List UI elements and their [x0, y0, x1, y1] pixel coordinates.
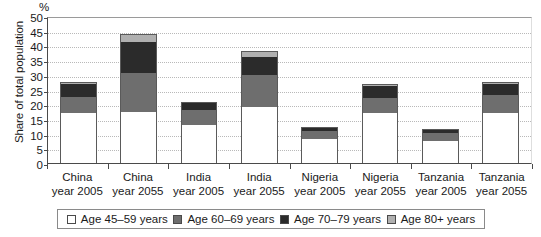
x-axis-label-year: year 2005 [168, 184, 229, 198]
legend-swatch-icon [173, 215, 182, 224]
bar-segment [241, 75, 278, 107]
y-axis-tick-label: 50 [21, 12, 43, 24]
x-axis-label: Tanzaniayear 2055 [471, 170, 532, 198]
bar-segment [120, 42, 157, 73]
bar-slot [290, 18, 350, 163]
y-axis-tick-label: 40 [21, 41, 43, 53]
bar-segment [120, 34, 157, 43]
x-axis-label: Indiayear 2005 [168, 170, 229, 198]
x-axis-label: Nigeriayear 2055 [350, 170, 411, 198]
bar-segment [482, 95, 519, 113]
stacked-bar[interactable] [181, 102, 218, 163]
bar-segment [181, 110, 218, 125]
x-axis-labels: Chinayear 2005Chinayear 2055Indiayear 20… [47, 170, 532, 198]
legend-swatch-icon [280, 215, 289, 224]
x-axis-label-country: Tanzania [411, 170, 472, 184]
bar-segment [301, 139, 338, 163]
stacked-bar[interactable] [120, 34, 157, 163]
x-axis-tick-mark [47, 164, 48, 169]
y-axis-tick-label: 35 [21, 56, 43, 68]
bar-segment [482, 113, 519, 163]
x-axis-label: Indiayear 2055 [229, 170, 290, 198]
bar-segment [181, 103, 218, 110]
x-axis-label-country: India [229, 170, 290, 184]
x-axis-tick-mark [411, 164, 412, 169]
stacked-bar[interactable] [241, 51, 278, 163]
x-axis-label: Chinayear 2005 [47, 170, 108, 198]
y-axis-tick-label: 45 [21, 27, 43, 39]
legend-label: Age 70–79 years [294, 213, 381, 225]
x-axis-label-country: Nigeria [290, 170, 351, 184]
legend-item[interactable]: Age 80+ years [387, 213, 475, 225]
legend-label: Age 45–59 years [81, 213, 168, 225]
x-axis-label-year: year 2005 [47, 184, 108, 198]
x-axis-label: Tanzaniayear 2005 [411, 170, 472, 198]
x-axis-label-year: year 2055 [229, 184, 290, 198]
bar-segment [60, 113, 97, 163]
bar-segment [482, 84, 519, 95]
bar-segment [362, 98, 399, 113]
stacked-bar[interactable] [482, 82, 519, 163]
x-axis-label-country: Tanzania [471, 170, 532, 184]
x-axis-label-year: year 2055 [350, 184, 411, 198]
x-axis-label-year: year 2005 [411, 184, 472, 198]
y-axis-tick-label: 0 [21, 159, 43, 171]
bar-segment [120, 112, 157, 163]
x-axis-label-country: China [47, 170, 108, 184]
bar-segment [362, 113, 399, 163]
y-axis-tick-label: 15 [21, 115, 43, 127]
x-axis-label-country: China [108, 170, 169, 184]
x-axis-label-year: year 2005 [290, 184, 351, 198]
x-axis-ticks [47, 164, 532, 169]
stacked-bar[interactable] [362, 84, 399, 163]
x-axis-tick-mark [350, 164, 351, 169]
y-axis-tick-label: 10 [21, 130, 43, 142]
x-axis-label-year: year 2055 [108, 184, 169, 198]
bar-segment [422, 141, 459, 163]
bar-slot [48, 18, 108, 163]
bar-segment [241, 107, 278, 163]
stacked-bar[interactable] [422, 129, 459, 163]
x-axis-tick-mark [168, 164, 169, 169]
x-axis-tick-mark [290, 164, 291, 169]
x-axis-tick-mark [229, 164, 230, 169]
x-axis-tick-mark [108, 164, 109, 169]
x-axis-label: Chinayear 2055 [108, 170, 169, 198]
legend-label: Age 80+ years [401, 213, 475, 225]
y-axis-tick-label: 25 [21, 86, 43, 98]
bar-segment [241, 57, 278, 75]
bar-slot [169, 18, 229, 163]
bar-segment [422, 133, 459, 141]
x-axis-tick-mark [471, 164, 472, 169]
bar-segment [362, 86, 399, 99]
legend-item[interactable]: Age 70–79 years [280, 213, 381, 225]
legend-label: Age 60–69 years [187, 213, 274, 225]
x-axis-label-year: year 2055 [471, 184, 532, 198]
stacked-bar[interactable] [301, 127, 338, 163]
legend-item[interactable]: Age 60–69 years [173, 213, 274, 225]
x-axis-label-country: India [168, 170, 229, 184]
bars-layer [48, 18, 531, 163]
bar-segment [60, 84, 97, 97]
bar-slot [350, 18, 410, 163]
bar-segment [181, 125, 218, 163]
bar-slot [471, 18, 531, 163]
y-axis-tick-label: 5 [21, 144, 43, 156]
x-axis-tick-mark [532, 164, 533, 169]
chart-legend: Age 45–59 yearsAge 60–69 yearsAge 70–79 … [57, 209, 485, 229]
stacked-bar[interactable] [60, 82, 97, 163]
x-axis-label: Nigeriayear 2005 [290, 170, 351, 198]
y-axis-tick-label: 20 [21, 100, 43, 112]
plot-area: 05101520253035404550 [47, 17, 532, 164]
bar-slot [229, 18, 289, 163]
stacked-bar-chart: % Share of total population 051015202530… [0, 0, 541, 237]
y-axis-tick-label: 30 [21, 71, 43, 83]
bar-slot [410, 18, 470, 163]
x-axis-label-country: Nigeria [350, 170, 411, 184]
bar-segment [301, 131, 338, 139]
legend-swatch-icon [387, 215, 396, 224]
legend-item[interactable]: Age 45–59 years [67, 213, 168, 225]
bar-segment [120, 73, 157, 111]
bar-slot [108, 18, 168, 163]
bar-segment [60, 97, 97, 113]
